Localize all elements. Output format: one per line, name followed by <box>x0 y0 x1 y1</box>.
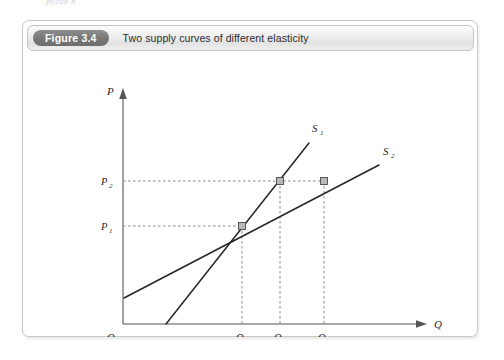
curve-label-s2-letter: S <box>383 145 389 157</box>
price-tick-p1: P 1 <box>100 221 113 235</box>
chart-area: P Q O P 2 P 1 Q 1 Q 2 Q 3 <box>23 52 477 337</box>
price-tick-p2-sub: 2 <box>109 182 113 190</box>
point-markers-group <box>239 178 328 230</box>
marker-s1-p2q2 <box>277 178 284 185</box>
price-axis-label: P <box>106 85 114 97</box>
quantity-tick-q3: Q 3 <box>318 332 331 337</box>
supply-curves-chart: P Q O P 2 P 1 Q 1 Q 2 Q 3 <box>23 52 477 337</box>
quantity-tick-q2: Q 2 <box>274 332 287 337</box>
guide-lines-group <box>123 181 324 324</box>
quantity-axis-label: Q <box>434 318 442 330</box>
origin-label: O <box>107 332 115 337</box>
curve-label-s1-sub: 1 <box>320 129 324 137</box>
marker-intersection-p1q1 <box>239 223 246 230</box>
curve-label-s2-sub: 2 <box>391 152 395 160</box>
figure-panel: Figure 3.4 Two supply curves of differen… <box>22 20 478 337</box>
quantity-tick-q1: Q 1 <box>236 332 249 337</box>
price-tick-p1-letter: P <box>100 221 108 232</box>
quantity-tick-q3-letter: Q <box>318 332 326 337</box>
marker-s2-p2q3 <box>321 178 328 185</box>
price-axis-arrow <box>119 88 127 99</box>
quantity-tick-q1-letter: Q <box>236 332 244 337</box>
axes-group <box>119 88 427 328</box>
supply-curves-group <box>124 143 379 324</box>
quantity-tick-q2-letter: Q <box>274 332 282 337</box>
page-top-bleed-text: ругив п <box>46 0 226 8</box>
curve-label-s1-letter: S <box>312 122 318 134</box>
supply-curve-s1 <box>166 143 309 324</box>
figure-number-badge: Figure 3.4 <box>33 30 109 47</box>
price-tick-p1-sub: 1 <box>109 227 113 235</box>
supply-curve-s2 <box>124 165 379 298</box>
price-tick-p2-letter: P <box>100 176 108 187</box>
curve-label-s1: S 1 <box>312 122 324 137</box>
quantity-axis-arrow <box>416 320 427 328</box>
price-tick-p2: P 2 <box>100 176 113 190</box>
figure-header-bar: Figure 3.4 Two supply curves of differen… <box>27 25 474 51</box>
curve-label-s2: S 2 <box>383 145 395 160</box>
figure-caption: Two supply curves of different elasticit… <box>123 32 309 44</box>
